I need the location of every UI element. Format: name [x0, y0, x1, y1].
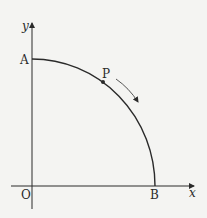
point-a-label: A: [19, 53, 29, 67]
origin-label: O: [21, 188, 31, 202]
diagram-canvas: y x O A B P: [0, 0, 207, 218]
arc-ab: [32, 59, 155, 186]
x-axis-label: x: [189, 186, 196, 200]
y-axis-label: y: [21, 19, 29, 33]
point-p-label: P: [102, 67, 110, 81]
motion-arrow-icon: [116, 79, 138, 102]
point-b-label: B: [150, 188, 159, 202]
